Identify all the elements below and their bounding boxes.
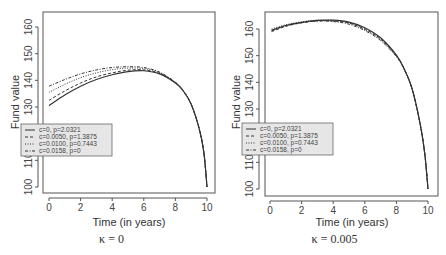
- x-tick-label: 6: [362, 205, 368, 216]
- y-axis-title: Fund value: [230, 75, 242, 129]
- series-line: [272, 20, 428, 189]
- x-tick-label: 6: [141, 202, 147, 213]
- y-axis-title: Fund value: [9, 75, 21, 129]
- y-tick-label: 100: [244, 180, 255, 197]
- x-tick-label: 8: [173, 202, 179, 213]
- x-tick-label: 4: [330, 205, 336, 216]
- x-axis-title: Time (in years): [93, 216, 166, 228]
- y-tick-label: 160: [23, 18, 34, 35]
- x-tick-label: 0: [267, 205, 273, 216]
- x-tick-label: 10: [201, 202, 213, 213]
- y-tick-label: 130: [244, 100, 255, 117]
- y-tick-label: 160: [244, 20, 255, 37]
- chart-panel-kappa-0: 0246810 100110120130140150160 c=0, p=2.0…: [0, 0, 223, 255]
- x-tick-label: 10: [422, 205, 434, 216]
- x-tick-label: 0: [46, 202, 52, 213]
- series-line: [272, 20, 428, 189]
- y-axis: 100110120130140150160: [244, 20, 259, 197]
- plot-frame: [43, 12, 215, 193]
- y-tick-label: 150: [23, 45, 34, 62]
- series-line: [272, 21, 428, 189]
- x-axis: 0246810: [267, 201, 434, 216]
- chart-svg: 0246810 100110120130140150160 c=0, p=2.0…: [0, 0, 223, 232]
- y-tick-label: 100: [23, 178, 34, 195]
- y-tick-label: 140: [23, 72, 34, 89]
- plot-frame: [265, 12, 438, 196]
- panel-caption: κ = 0: [0, 232, 223, 247]
- x-tick-label: 4: [109, 202, 115, 213]
- y-tick-label: 140: [244, 74, 255, 91]
- x-axis-title: Time (in years): [316, 216, 389, 228]
- legend: c=0, p=2.0321c=0.0050, p=1.3875c=0.0100,…: [21, 124, 112, 156]
- chart-panel-kappa-0005: 0246810 100110120130140150160 c=0, p=2.0…: [223, 0, 446, 255]
- x-axis: 0246810: [46, 198, 213, 213]
- y-tick-label: 150: [244, 47, 255, 64]
- chart-svg: 0246810 100110120130140150160 c=0, p=2.0…: [223, 0, 446, 232]
- series-line: [272, 21, 428, 189]
- series-lines: [272, 20, 428, 189]
- y-tick-label: 110: [244, 154, 255, 170]
- panel-caption: κ = 0.005: [223, 232, 446, 247]
- x-tick-label: 2: [78, 202, 84, 213]
- x-tick-label: 2: [299, 205, 305, 216]
- y-axis: 100110120130140150160: [23, 18, 38, 195]
- legend-label: c=0.0158, p=0: [260, 146, 302, 154]
- x-tick-label: 8: [394, 205, 400, 216]
- y-tick-label: 130: [23, 98, 34, 115]
- legend-label: c=0.0158, p=0: [39, 147, 81, 155]
- legend: c=0, p=2.0321c=0.0050, p=1.3875c=0.0100,…: [242, 123, 333, 155]
